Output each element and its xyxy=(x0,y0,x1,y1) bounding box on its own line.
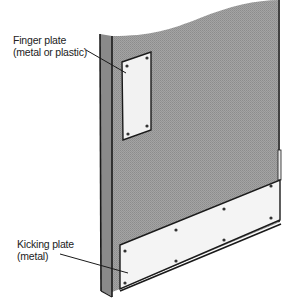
kicking-plate-label-line1: Kicking plate xyxy=(17,238,74,250)
door-edge xyxy=(100,34,112,296)
kicking-plate-label-line2: (metal) xyxy=(17,250,74,262)
finger-plate-label: Finger plate (metal or plastic) xyxy=(13,34,87,58)
kicking-plate-label: Kicking plate (metal) xyxy=(17,238,74,262)
finger-plate xyxy=(122,52,151,140)
finger-plate-label-line2: (metal or plastic) xyxy=(13,46,87,58)
finger-plate-label-line1: Finger plate xyxy=(13,34,87,46)
door-hinge xyxy=(278,150,281,180)
